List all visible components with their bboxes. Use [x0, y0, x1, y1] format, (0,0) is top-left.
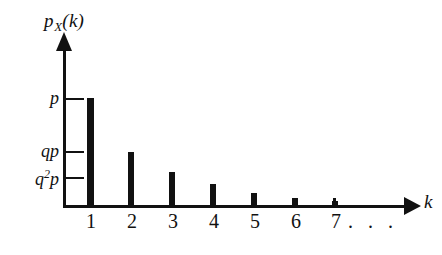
y-tick-label-q2p-wrap: q2p	[0, 168, 59, 186]
x-tick-label-2: 2	[119, 211, 145, 232]
y-tick-label-q2p-tail: p	[50, 169, 59, 189]
y-tick-label-qp: qp	[41, 142, 59, 160]
y-tick-label-qp-base: qp	[41, 141, 59, 161]
y-axis-title-suffix: (k)	[62, 10, 84, 31]
x-axis-arrowhead	[404, 197, 421, 215]
x-tick-label-4: 4	[201, 211, 227, 232]
y-axis-title-base: p	[44, 10, 54, 31]
x-axis-line	[63, 205, 413, 208]
y-tick-label-q2p-base: q	[35, 169, 44, 189]
y-tick-label-p-base: p	[50, 88, 59, 108]
x-axis-ellipsis: . . .	[348, 211, 398, 232]
x-tick-label-5: 5	[242, 211, 268, 232]
y-tick-label-qp-wrap: qp	[0, 142, 59, 160]
x-tick-mark-4	[211, 198, 214, 206]
y-tick-mark-q2p	[63, 177, 84, 179]
y-tick-mark-p	[63, 98, 84, 100]
y-tick-mark-qp	[63, 151, 84, 153]
y-tick-label-p: p	[50, 89, 59, 107]
y-axis-line	[63, 48, 66, 207]
y-tick-label-p-wrap: p	[0, 89, 59, 107]
y-tick-label-q2p: q2p	[35, 168, 59, 188]
x-tick-label-1: 1	[78, 211, 104, 232]
x-tick-mark-2	[129, 198, 132, 206]
x-tick-mark-7	[333, 198, 336, 206]
geometric-pmf-figure: pX(k) k p qp q2p 1 2 3 4 5 6 7 . . .	[0, 0, 442, 255]
x-tick-mark-5	[252, 198, 255, 206]
x-axis-title: k	[424, 191, 432, 213]
x-tick-label-7: 7	[323, 211, 349, 232]
x-tick-mark-1	[88, 198, 91, 206]
x-tick-mark-3	[170, 198, 173, 206]
bar-k1	[87, 98, 94, 205]
x-tick-mark-6	[293, 198, 296, 206]
x-tick-label-3: 3	[160, 211, 186, 232]
x-tick-label-6: 6	[283, 211, 309, 232]
